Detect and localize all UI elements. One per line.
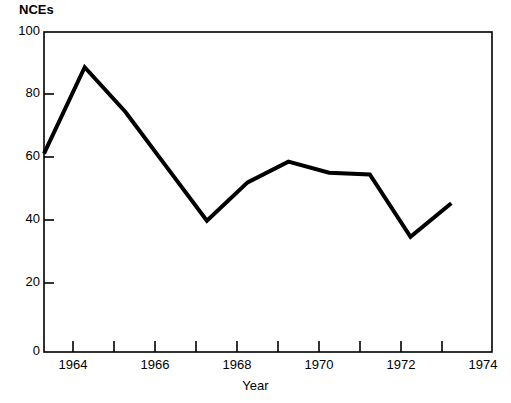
x-tick-label-1968: 1968	[209, 357, 265, 372]
x-tick-label-1974: 1974	[455, 357, 511, 372]
data-series-nces	[44, 67, 451, 237]
x-axis-ticks	[73, 341, 442, 352]
plot-area	[0, 0, 511, 403]
x-axis-title: Year	[0, 378, 511, 393]
x-tick-label-1964: 1964	[45, 357, 101, 372]
plot-frame	[44, 32, 492, 352]
y-axis-ticks	[44, 94, 54, 283]
x-tick-label-1966: 1966	[127, 357, 183, 372]
x-tick-label-1970: 1970	[291, 357, 347, 372]
line-chart: NCEs 100	[0, 0, 511, 403]
x-tick-label-1972: 1972	[373, 357, 429, 372]
